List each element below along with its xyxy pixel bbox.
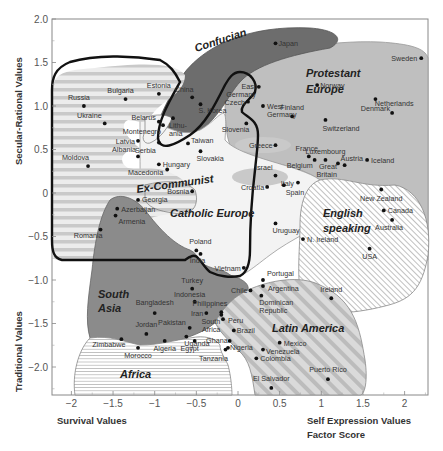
label-english-line1: English xyxy=(323,207,363,219)
point-marker-icon xyxy=(274,174,278,178)
point-marker-icon xyxy=(324,158,328,162)
country-label: Ukraine xyxy=(77,111,102,120)
point-marker-icon xyxy=(269,386,273,390)
country-label: Indonesia xyxy=(174,290,205,299)
point-marker-icon xyxy=(136,155,140,159)
point-marker-icon xyxy=(165,168,169,172)
country-label: N. Ireland xyxy=(307,235,338,244)
country-point: Colombia xyxy=(254,354,290,363)
point-marker-icon xyxy=(261,278,265,282)
label-africa: Africa xyxy=(119,368,151,380)
point-marker-icon xyxy=(224,348,228,352)
country-label: Africa xyxy=(202,325,220,334)
point-marker-icon xyxy=(82,104,86,108)
country-label: Ireland xyxy=(320,285,342,294)
country-label: Croatia xyxy=(241,183,264,192)
x-tick-label: 1.5 xyxy=(356,398,370,409)
point-marker-icon xyxy=(343,163,347,167)
country-label: Chile xyxy=(231,286,247,295)
country-label: Norway xyxy=(320,81,345,90)
point-marker-icon xyxy=(257,85,261,89)
country-label: Republic xyxy=(259,306,287,315)
point-marker-icon xyxy=(274,143,278,147)
country-label: Slovenia xyxy=(222,125,250,134)
country-label: S. Korea xyxy=(199,106,227,115)
point-marker-icon xyxy=(274,222,278,226)
country-point: Norway xyxy=(315,81,345,90)
x-axis-title-right-1: Self Expression Values xyxy=(307,415,411,426)
country-label: Spain xyxy=(286,188,304,197)
country-label: Latvia xyxy=(116,137,135,146)
point-marker-icon xyxy=(204,311,208,315)
country-label: Georgia xyxy=(142,195,168,204)
country-label: Uruguay xyxy=(272,226,300,235)
y-tick-label: 0 xyxy=(42,188,48,199)
point-marker-icon xyxy=(163,339,167,343)
point-marker-icon xyxy=(274,41,278,45)
country-label: Colombia xyxy=(260,354,290,363)
point-marker-icon xyxy=(115,207,119,211)
country-point: Azerbaijan xyxy=(115,205,155,214)
point-marker-icon xyxy=(124,97,128,101)
point-marker-icon xyxy=(194,249,198,253)
point-marker-icon xyxy=(254,356,258,360)
country-label: Israel xyxy=(255,163,273,172)
country-label: Moldova xyxy=(62,153,89,162)
point-marker-icon xyxy=(326,377,330,381)
point-marker-icon xyxy=(171,116,175,120)
country-label: Belgium xyxy=(287,161,313,170)
point-marker-icon xyxy=(193,339,197,343)
country-label: Romania xyxy=(74,231,103,240)
point-marker-icon xyxy=(278,341,282,345)
point-marker-icon xyxy=(157,141,161,145)
country-point: Macedonia xyxy=(128,168,169,177)
country-label: Slovakia xyxy=(197,154,224,163)
country-point: SouthAfrica xyxy=(202,313,224,334)
y-tick-label: −1.0 xyxy=(28,275,48,286)
point-marker-icon xyxy=(221,317,225,321)
country-label: Turkey xyxy=(181,276,203,285)
country-label: Ghana xyxy=(206,336,228,345)
point-marker-icon xyxy=(419,56,423,60)
country-label: Albania xyxy=(112,145,136,154)
y-tick-label: 2.0 xyxy=(34,14,48,25)
y-axis-title-bottom: Traditional Values xyxy=(13,311,24,392)
country-label: Taiwan xyxy=(191,136,213,145)
country-point: GreatBritain xyxy=(317,162,340,180)
point-marker-icon xyxy=(379,188,383,192)
point-marker-icon xyxy=(246,100,250,104)
country-label: Argentina xyxy=(268,284,299,293)
country-label: Morocco xyxy=(124,351,152,360)
point-marker-icon xyxy=(188,326,192,330)
point-marker-icon xyxy=(114,214,118,218)
country-label: Philippines xyxy=(193,299,228,308)
country-label: ania xyxy=(169,129,183,138)
country-label: Britain xyxy=(317,170,337,179)
x-axis-title-right-2: Factor Score xyxy=(307,429,365,440)
x-tick-label: −1.5 xyxy=(103,398,123,409)
x-tick-label: 0.5 xyxy=(273,398,287,409)
country-label: Macedonia xyxy=(128,168,163,177)
point-marker-icon xyxy=(265,185,269,189)
country-label: Nigeria xyxy=(230,343,253,352)
country-label: Bangladesh xyxy=(136,298,174,307)
country-label: Zimbabwe xyxy=(92,340,125,349)
point-marker-icon xyxy=(136,139,140,143)
point-marker-icon xyxy=(324,118,328,122)
point-marker-icon xyxy=(282,183,286,187)
country-label: Finland xyxy=(280,103,304,112)
y-tick-label: 0.5 xyxy=(34,144,48,155)
point-marker-icon xyxy=(365,158,369,162)
point-marker-icon xyxy=(390,111,394,115)
country-label: Pakistan xyxy=(158,318,186,327)
point-marker-icon xyxy=(261,104,265,108)
x-tick-label: 2 xyxy=(402,398,408,409)
cultural-map-chart: −2−1.5−1−0.500.511.52 2.01.51.00.50−0.5−… xyxy=(0,0,443,451)
point-marker-icon xyxy=(103,122,107,126)
point-marker-icon xyxy=(190,189,194,193)
point-marker-icon xyxy=(301,237,305,241)
label-catholic-europe: Catholic Europe xyxy=(170,207,254,219)
country-label: Netherlands xyxy=(375,99,414,108)
y-tick-label: −0.5 xyxy=(28,231,48,242)
country-label: Bulgaria xyxy=(107,86,133,95)
